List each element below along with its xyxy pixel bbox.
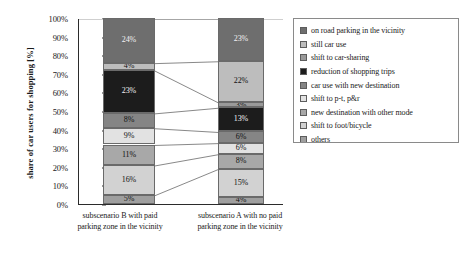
legend-item[interactable]: reduction of shopping trips xyxy=(300,65,454,79)
stacked-bar-chart: share of car users for shopping [%] 0%10… xyxy=(0,0,462,254)
connector-line xyxy=(155,170,218,196)
bar-segment-label: 6% xyxy=(236,144,246,152)
bar-segment-label: 22% xyxy=(234,77,248,85)
bar-segment-label: 9% xyxy=(124,132,134,140)
legend-swatch-icon xyxy=(300,27,307,34)
y-tick-label: 40% xyxy=(53,126,68,136)
bar-segment: 16% xyxy=(103,165,155,195)
legend-item[interactable]: car use with new destination xyxy=(300,78,454,92)
y-axis-tick-labels: 0%10%20%30%40%50%60%70%80%90%100% xyxy=(28,14,72,210)
x-axis-label: subscenario A with no paidparking zone i… xyxy=(180,210,300,232)
bar-segment: 4% xyxy=(218,197,264,204)
x-axis-label-line: subscenario A with no paid xyxy=(180,210,300,221)
bar-segment-label: 13% xyxy=(234,115,248,123)
legend-swatch-icon xyxy=(300,54,307,61)
y-tick-label: 30% xyxy=(53,144,68,154)
bar-segment-label: 11% xyxy=(122,151,136,159)
legend-swatch-icon xyxy=(300,95,307,102)
bar-segment: 15% xyxy=(218,169,264,197)
legend-label: new destination with other mode xyxy=(311,108,413,117)
connector-line xyxy=(155,144,218,146)
y-tick-label: 60% xyxy=(53,88,68,98)
legend-label: others xyxy=(311,135,330,143)
plot-area: 5%16%11%9%8%23%4%24% 4%15%8%6%6%13%3%22%… xyxy=(78,19,283,205)
connector-line xyxy=(155,62,218,64)
bar-segment-label: 16% xyxy=(122,176,136,184)
x-axis-label-line: parking zone in the vicinity xyxy=(60,221,180,232)
bar-segment-label: 4% xyxy=(236,197,246,204)
bar-segment-label: 23% xyxy=(234,35,248,43)
legend-swatch-icon xyxy=(300,122,307,129)
bar-segment: 8% xyxy=(103,113,155,128)
bar-segment: 23% xyxy=(218,18,264,61)
bar-segment: 22% xyxy=(218,61,264,102)
bar-segment: 9% xyxy=(103,128,155,145)
bar-segment: 3% xyxy=(218,102,264,108)
bar-segment: 4% xyxy=(103,63,155,70)
legend-item[interactable]: on road parking in the vicinity xyxy=(300,24,454,38)
legend-swatch-icon xyxy=(300,41,307,48)
legend-label: car use with new destination xyxy=(311,81,399,90)
bar-subscenario-b: 5%16%11%9%8%23%4%24% xyxy=(103,18,155,204)
bar-segment-label: 23% xyxy=(122,87,136,95)
bar-segment-label: 6% xyxy=(236,133,246,141)
y-tick-label: 70% xyxy=(53,70,68,80)
bar-segment: 6% xyxy=(218,143,264,154)
legend-swatch-icon xyxy=(300,68,307,75)
bar-segment: 8% xyxy=(218,154,264,169)
legend-label: shift to foot/bicycle xyxy=(311,121,372,130)
bar-segment-label: 5% xyxy=(124,195,134,203)
x-axis-label-line: parking zone in the vicinity xyxy=(180,221,300,232)
legend-label: shift to car-sharing xyxy=(311,53,369,62)
legend-item[interactable]: still car use xyxy=(300,38,454,52)
legend-item[interactable]: shift to p-t, p&r xyxy=(300,92,454,106)
y-tick-label: 20% xyxy=(53,163,68,173)
legend-label: still car use xyxy=(311,40,346,49)
bar-segment: 5% xyxy=(103,195,155,204)
bar-segment-label: 24% xyxy=(122,36,136,44)
legend-swatch-icon xyxy=(300,136,307,143)
x-axis-labels: subscenario B with paidparking zone in t… xyxy=(60,210,300,232)
bar-segment-label: 3% xyxy=(236,102,246,108)
connector-line xyxy=(155,129,218,133)
y-tick-label: 100% xyxy=(49,14,68,24)
bar-segment: 11% xyxy=(103,145,155,165)
y-tick-label: 10% xyxy=(53,181,68,191)
bar-subscenario-a: 4%15%8%6%6%13%3%22%23% xyxy=(218,18,264,204)
bar-segment: 6% xyxy=(218,131,264,142)
connector-line xyxy=(155,155,218,166)
bar-segment-label: 8% xyxy=(236,157,246,165)
bar-segment: 13% xyxy=(218,107,264,131)
legend-item[interactable]: new destination with other mode xyxy=(300,106,454,120)
legend-swatch-icon xyxy=(300,109,307,116)
bar-segment: 23% xyxy=(103,70,155,113)
bar-segment-label: 8% xyxy=(124,116,134,124)
chart-legend: on road parking in the vicinitystill car… xyxy=(293,18,459,143)
y-tick-label: 50% xyxy=(53,107,68,117)
legend-item[interactable]: shift to car-sharing xyxy=(300,51,454,65)
legend-label: on road parking in the vicinity xyxy=(311,26,405,35)
legend-label: reduction of shopping trips xyxy=(311,67,395,76)
connector-line xyxy=(155,108,218,114)
x-axis-label-line: subscenario B with paid xyxy=(60,210,180,221)
bar-segment: 24% xyxy=(103,18,155,63)
connector-line xyxy=(155,71,218,103)
y-tick-label: 90% xyxy=(53,33,68,43)
y-tick-label: 0% xyxy=(57,200,68,210)
legend-item[interactable]: others xyxy=(300,133,454,143)
bar-segment-label: 4% xyxy=(124,63,134,70)
legend-item[interactable]: shift to foot/bicycle xyxy=(300,119,454,133)
legend-swatch-icon xyxy=(300,82,307,89)
y-tick-label: 80% xyxy=(53,51,68,61)
x-axis-label: subscenario B with paidparking zone in t… xyxy=(60,210,180,232)
bar-segment-label: 15% xyxy=(234,179,248,187)
legend-label: shift to p-t, p&r xyxy=(311,94,360,103)
